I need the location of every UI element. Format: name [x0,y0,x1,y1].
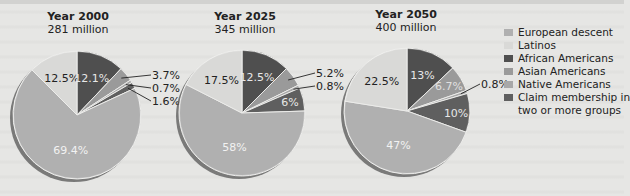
slice-label: 17.5% [204,74,239,87]
slice-label: 0.8% [316,80,344,93]
slice-label: 0.7% [152,82,180,95]
pie-year-2000 [10,51,141,182]
slice-label: 6.7% [435,80,463,93]
slice-label: 3.7% [152,69,180,82]
legend-item-native: Native Americans [504,78,630,91]
slice-label: 47% [386,139,410,152]
legend-item-latinos: Latinos [504,39,630,52]
legend-item-multiple: Claim membership in two or more groups [504,91,630,117]
slice-label: 13% [410,69,434,82]
legend-label: European descent [518,26,613,39]
legend-swatch [504,55,513,62]
legend-item-asian: Asian Americans [504,65,630,78]
legend-swatch [504,81,513,88]
slice-label: 5.2% [316,67,344,80]
slice-label: 58% [222,141,246,154]
slice-label: 69.4% [53,144,88,157]
pie-year-2025 [176,50,305,179]
legend-swatch [504,68,513,75]
slice-label: 1.6% [152,95,180,108]
legend-swatch [504,29,513,36]
slice-label: 6% [281,96,298,109]
legend-item-european: European descent [504,26,630,39]
legend-label: Native Americans [518,78,611,91]
legend-label: Latinos [518,39,556,52]
legend-label: African Americans [518,52,613,65]
legend-label: Asian Americans [518,65,605,78]
slice-label: 12.1% [74,72,109,85]
legend-swatch [504,94,513,101]
legend-label: Claim membership in two or more groups [518,91,630,117]
legend: European descent Latinos African America… [504,26,630,117]
slice-label: 22.5% [364,75,399,88]
legend-item-african: African Americans [504,52,630,65]
slice-label: 10% [444,107,468,120]
slice-label: 12.5% [239,71,274,84]
legend-swatch [504,42,513,49]
